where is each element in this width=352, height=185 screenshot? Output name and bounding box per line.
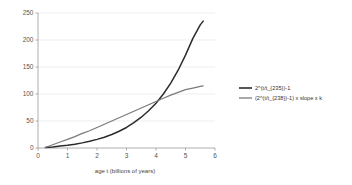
- x-axis-tick-label: 5: [184, 152, 188, 159]
- series-line-1: [45, 86, 203, 148]
- y-axis-tick-label: 0: [30, 144, 34, 151]
- y-axis-tick-label: 100: [23, 90, 34, 97]
- chart-container: 050100150200250 0123456 age t (billions …: [0, 0, 352, 185]
- gridlines-group: [38, 13, 215, 121]
- x-axis-tick-label: 1: [66, 152, 70, 159]
- axes-group: [36, 13, 216, 151]
- y-axis-tick-label: 200: [23, 36, 34, 43]
- x-axis-tick-label: 6: [213, 152, 217, 159]
- chart-legend: 2^(t/t_{235})-1(2^(t/t_{238})-1) x slope…: [239, 85, 322, 101]
- legend-label-0: 2^(t/t_{235})-1: [255, 85, 290, 91]
- x-axis-title: age t (billions of years): [95, 168, 155, 174]
- y-axis-tick-label: 50: [26, 117, 34, 124]
- x-axis-tick-label: 2: [95, 152, 99, 159]
- x-axis-tick-label: 0: [36, 152, 40, 159]
- legend-label-1: (2^(t/t_{238})-1) x slope x k: [255, 95, 322, 101]
- x-axis-tick-label: 4: [154, 152, 158, 159]
- x-axis-tick-label: 3: [125, 152, 129, 159]
- exponential-growth-line-chart: 050100150200250 0123456 age t (billions …: [0, 0, 352, 185]
- x-axis-tick-labels: 0123456: [36, 152, 217, 159]
- y-axis-tick-label: 250: [23, 9, 34, 16]
- y-axis-tick-label: 150: [23, 63, 34, 70]
- y-axis-tick-labels: 050100150200250: [23, 9, 34, 151]
